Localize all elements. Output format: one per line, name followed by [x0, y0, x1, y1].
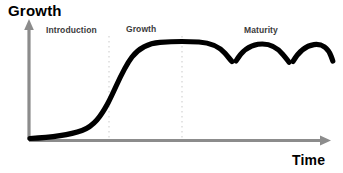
product-life-cycle-chart: Growth Time Introduction Growth Maturity — [0, 0, 343, 173]
x-axis-title: Time — [292, 152, 325, 168]
stage-label-introduction: Introduction — [46, 25, 97, 35]
stage-label-growth: Growth — [126, 24, 156, 34]
curve-segment-growth-plateau — [30, 41, 232, 138]
x-axis-arrowhead — [320, 135, 331, 145]
stage-label-maturity: Maturity — [244, 25, 278, 35]
y-axis-title: Growth — [8, 2, 62, 19]
y-axis-arrowhead — [24, 19, 34, 30]
curve-segment-maturity-arch-1 — [236, 44, 289, 62]
stage-dividers — [109, 36, 182, 139]
y-axis — [24, 19, 34, 140]
x-axis — [29, 135, 331, 145]
curve-segment-maturity-arch-2 — [293, 44, 333, 61]
